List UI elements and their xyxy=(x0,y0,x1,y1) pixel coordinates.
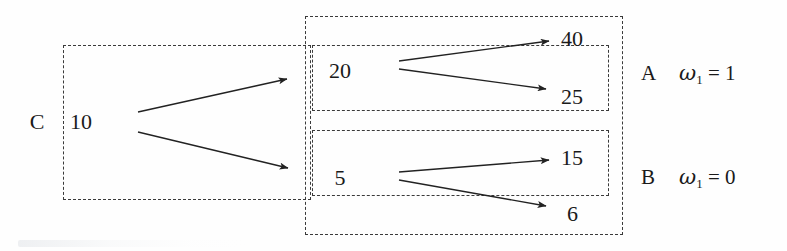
outcome-b-upper: 15 xyxy=(561,147,583,169)
omega-symbol-a: ω xyxy=(679,61,696,85)
root-node-value: 10 xyxy=(70,111,104,133)
equals-sign-a: = xyxy=(708,61,720,85)
omega-subscript-a: 1 xyxy=(696,72,703,87)
equals-sign-b: = xyxy=(708,165,720,189)
root-player-label: C xyxy=(26,111,48,133)
information-set-label-a: Aω1 = 1 xyxy=(641,63,735,84)
upper-node-value: 20 xyxy=(322,60,358,82)
scan-artifact xyxy=(18,240,248,247)
lower-node-value: 5 xyxy=(322,167,358,189)
information-set-a-condition: ω1 = 1 xyxy=(679,63,735,84)
information-set-a-letter: A xyxy=(641,63,657,84)
information-set-b-letter: B xyxy=(641,167,657,188)
outcome-a-lower: 25 xyxy=(561,86,583,108)
information-set-a-value: 1 xyxy=(725,61,736,85)
omega-symbol-b: ω xyxy=(679,165,696,189)
information-set-b-condition: ω1 = 0 xyxy=(679,167,735,188)
outcome-b-lower: 6 xyxy=(567,203,578,225)
outcome-a-upper: 40 xyxy=(561,28,583,50)
decision-tree-figure: C 10 20 5 40 25 15 6 Aω1 = 1 Bω1 = 0 xyxy=(0,0,787,251)
information-set-b-value: 0 xyxy=(725,165,736,189)
information-set-label-b: Bω1 = 0 xyxy=(641,167,735,188)
omega-subscript-b: 1 xyxy=(696,176,703,191)
